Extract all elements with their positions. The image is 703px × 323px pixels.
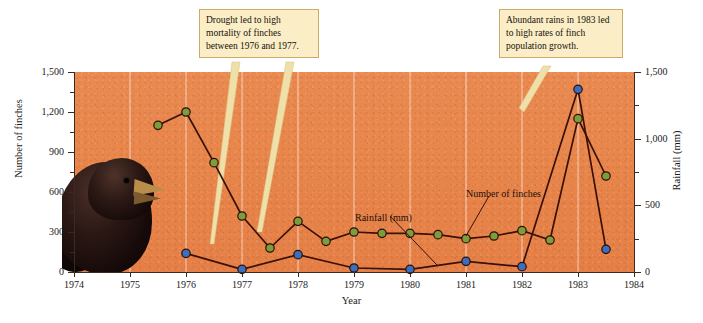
y-tick-label: 900 [24,147,64,157]
y-tick-label: 300 [24,227,64,237]
tick-mark [130,272,131,277]
x-tick-label: 1977 [222,280,262,290]
tick-mark [635,172,639,173]
finch-eye [124,178,129,183]
finch-beak-lower [134,192,161,206]
y2-tick-label: 1,500 [645,67,668,77]
tick-mark [578,272,579,277]
data-point [322,237,330,245]
tick-mark [466,272,467,277]
y2-tick-label: 500 [645,200,660,210]
x-tick-label: 1978 [278,280,318,290]
tick-mark [635,105,639,106]
tick-mark [68,152,74,153]
data-point [154,121,162,129]
x-tick-label: 1982 [502,280,542,290]
y2-tick-label: 0 [645,267,650,277]
data-point [266,244,274,252]
callout-drought: Drought led to high mortality of finches… [199,9,319,58]
x-tick-label: 1980 [390,280,430,290]
data-point [350,228,358,236]
data-point [378,229,386,237]
rainfall-series-label: Rainfall (mm) [355,212,412,223]
tick-mark [68,112,74,113]
x-axis-title: Year [0,295,703,306]
tick-mark [410,272,411,277]
data-point [182,249,190,257]
tick-mark [70,132,74,133]
tick-mark [634,272,635,277]
tick-mark [298,272,299,277]
data-point [182,108,190,116]
y2-axis-title: Rainfall (mm) [671,106,682,216]
data-point [294,250,302,258]
x-tick-label: 1984 [614,280,654,290]
data-point [602,245,610,253]
tick-mark [186,272,187,277]
tick-mark [70,92,74,93]
data-point [238,212,246,220]
x-tick-label: 1974 [54,280,94,290]
y2-tick-label: 1,000 [645,134,668,144]
finch-photo [62,152,174,273]
x-tick-label: 1979 [334,280,374,290]
tick-mark [70,172,74,173]
tick-mark [635,205,641,206]
data-point [490,232,498,240]
tick-mark [74,272,75,277]
gridlines [130,72,578,272]
data-point [602,172,610,180]
y-tick-label: 1,500 [24,67,64,77]
tick-mark [635,272,641,273]
tick-mark [522,272,523,277]
tick-mark [70,212,74,213]
data-point [518,226,526,234]
data-point [574,85,582,93]
tick-mark [635,72,641,73]
data-point [518,262,526,270]
y-tick-label: 0 [24,267,64,277]
data-point [294,217,302,225]
tick-mark [635,139,641,140]
tick-mark [68,192,74,193]
y-tick-label: 600 [24,187,64,197]
data-point [434,230,442,238]
tick-mark [242,272,243,277]
tick-mark [68,72,74,73]
data-point [546,236,554,244]
data-point [210,158,218,166]
tick-mark [354,272,355,277]
data-point [350,264,358,272]
finches-series-label: Number of finches [466,188,541,199]
figure-finch-population-rainfall: 03006009001,2001,50005001,0001,500197419… [0,0,703,323]
data-point [462,257,470,265]
tick-mark [68,232,74,233]
data-point [574,114,582,122]
tick-mark [70,252,74,253]
y-axis-title: Number of finches [13,84,24,194]
callout-rains: Abundant rains in 1983 led to high rates… [499,9,623,58]
x-tick-label: 1981 [446,280,486,290]
x-tick-label: 1975 [110,280,150,290]
tick-mark [635,239,639,240]
y-tick-label: 1,200 [24,107,64,117]
x-tick-label: 1983 [558,280,598,290]
y-axis-line [74,72,75,273]
x-tick-label: 1976 [166,280,206,290]
